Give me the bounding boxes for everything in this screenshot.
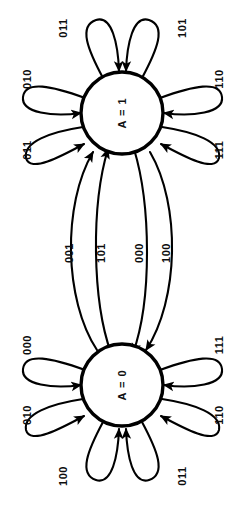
self-loop-s1-110 [160,86,222,114]
edge-label-s0-111: 111 [213,336,225,355]
edge-label-s1-010: 010 [21,69,33,89]
edge-label-s0-011: 011 [176,466,188,485]
edge-label-transition-100: 100 [160,243,172,263]
state-diagram-canvas: A = 1 A = 0 011 010 011 101 110 111 000 … [0,0,245,505]
edge-label-transition-001: 001 [63,243,75,263]
state-label-a0: A = 0 [116,369,128,400]
edge-label-s1-110: 110 [213,69,225,88]
self-loop-s1-010 [23,86,85,114]
self-loop-s1-101 [126,19,159,78]
self-loop-s1-011-upper [86,19,119,78]
edge-label-s0-100: 100 [57,466,69,486]
edge-label-transition-000: 000 [133,243,145,263]
edge-label-s0-000: 000 [21,335,33,355]
self-loop-s1-111 [161,127,219,164]
edge-label-s1-111: 111 [213,141,225,160]
self-loop-s1-011-lower [26,127,84,164]
edge-label-s0-110: 110 [213,405,225,424]
edge-label-s1-011-lower: 011 [21,140,33,159]
self-loop-s0-100 [86,422,119,481]
edge-label-s1-101: 101 [176,18,188,38]
state-diagram-svg [0,0,245,505]
self-loop-s0-010 [26,399,84,436]
state-label-a1: A = 1 [116,97,128,128]
self-loop-s0-111 [160,358,222,386]
edge-label-s0-010: 010 [21,405,33,425]
self-loop-s0-011 [126,422,159,481]
self-loop-s0-000 [23,358,85,386]
self-loop-s0-110 [161,399,219,436]
edge-label-s1-011-upper: 011 [57,18,69,37]
edge-label-transition-101: 101 [95,243,107,263]
